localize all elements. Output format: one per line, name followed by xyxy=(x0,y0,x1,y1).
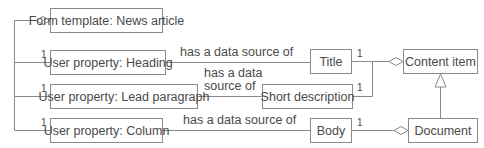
column-property-label: User property: Column xyxy=(44,124,170,138)
aggregation-diamond-icon xyxy=(394,127,408,135)
generalization-arrow-icon xyxy=(435,74,446,87)
heading-property-label: User property: Heading xyxy=(43,56,172,70)
multiplicity-lead-paragraph: 1 xyxy=(41,84,47,94)
multiplicity-heading: 1 xyxy=(41,50,47,60)
form-template-box: Form template: News article xyxy=(50,8,163,33)
document-label: Document xyxy=(415,124,472,138)
body-label: Body xyxy=(317,124,346,138)
multiplicity-title: 1 xyxy=(357,49,363,59)
form-template-label: Form template: News article xyxy=(29,14,185,28)
lead-paragraph-property-label: User property: Lead paragraph xyxy=(39,90,210,104)
heading-property-box: User property: Heading xyxy=(50,50,166,75)
title-box: Title xyxy=(310,49,352,74)
document-box: Document xyxy=(408,118,478,143)
short-description-box: Short description xyxy=(262,84,353,109)
edge-label-column-body: has a data source of xyxy=(183,113,296,127)
content-item-label: Content item xyxy=(405,55,476,69)
multiplicity-body: 1 xyxy=(357,118,363,128)
aggregation-diamond-icon xyxy=(389,58,403,66)
short-description-label: Short description xyxy=(261,90,355,104)
multiplicity-column: 1 xyxy=(41,118,47,128)
lead-paragraph-property-box: User property: Lead paragraph xyxy=(50,84,198,109)
title-label: Title xyxy=(319,55,342,69)
multiplicity-short-description: 1 xyxy=(357,83,363,93)
edge-label-lead-short-line1: has a data xyxy=(204,66,262,80)
content-item-box: Content item xyxy=(403,49,478,74)
edge-label-heading-title: has a data source of xyxy=(180,45,293,59)
edge-label-lead-short-line2: source of xyxy=(204,79,255,93)
body-box: Body xyxy=(310,118,352,143)
column-property-box: User property: Column xyxy=(50,118,163,143)
